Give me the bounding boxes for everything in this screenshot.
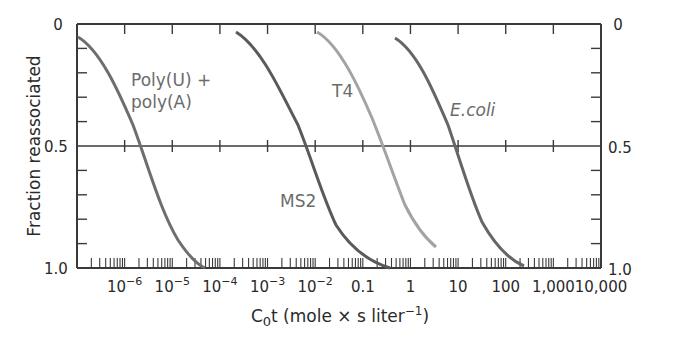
x-tick-label: 100: [491, 278, 520, 296]
x-axis-tick-labels: 10−610−510−410−310−20.11101001,00010,000: [107, 275, 627, 296]
x-tick-label: 10−2: [298, 275, 333, 296]
x-tick-label: 10: [449, 278, 468, 296]
x-tick-label: 0.1: [351, 278, 375, 296]
y-tick-left-1-0: 1.0: [44, 260, 68, 278]
y-tick-right-0-5: 0.5: [608, 139, 632, 157]
curve-e-coli: [395, 38, 524, 266]
y-tick-left-0-5: 0.5: [44, 138, 68, 156]
label-poly-u: Poly(U) +: [131, 70, 211, 90]
x-tick-label: 10−6: [107, 275, 142, 296]
label-e-coli: E.coli: [450, 100, 496, 120]
x-tick-label: 10−3: [250, 275, 285, 296]
y-axis-title: Fraction reassociated: [24, 55, 44, 236]
y-tick-right-1-0: 1.0: [608, 261, 632, 279]
x-tick-label: 10,000: [575, 278, 628, 296]
y-tick-right-0: 0: [613, 16, 623, 34]
x-tick-label: 1: [406, 278, 416, 296]
chart: Poly(U) + poly(A) T4 E.coli MS2 0 0.5 1.…: [0, 0, 675, 352]
x-tick-label: 10−5: [155, 275, 190, 296]
label-poly-a: poly(A): [131, 92, 192, 112]
x-tick-label: 10−4: [202, 275, 237, 296]
curve-ms2: [236, 32, 390, 268]
label-ms2: MS2: [280, 191, 316, 211]
x-axis-title: C0t (mole × s liter−1): [251, 304, 429, 329]
y-tick-left-0: 0: [53, 16, 63, 34]
label-t4: T4: [331, 81, 353, 101]
x-tick-label: 1,000: [532, 278, 575, 296]
